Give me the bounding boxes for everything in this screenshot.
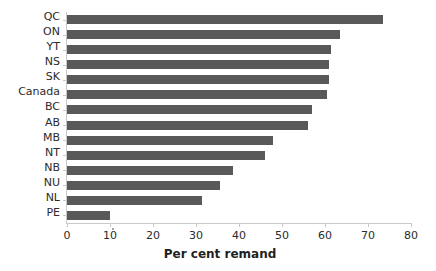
bar bbox=[67, 15, 383, 24]
bar-row: NB bbox=[67, 166, 411, 175]
x-axis-tick-label: 10 bbox=[103, 230, 117, 242]
x-axis-tick bbox=[411, 223, 412, 227]
bar-row: BC bbox=[67, 105, 411, 114]
y-axis-tick-label: NB bbox=[44, 162, 60, 173]
y-axis-line bbox=[66, 12, 67, 223]
bar-row: NL bbox=[67, 196, 411, 205]
x-axis-tick-label: 80 bbox=[404, 230, 418, 242]
bar bbox=[67, 166, 233, 175]
bar-row: ON bbox=[67, 30, 411, 39]
y-axis-tick-label: SK bbox=[46, 71, 60, 82]
x-axis-title-text: Per cent remand bbox=[164, 247, 277, 261]
bar-row: YT bbox=[67, 45, 411, 54]
x-axis-tick bbox=[110, 223, 111, 227]
y-axis-tick-label: BC bbox=[45, 101, 60, 112]
y-axis-tick-label: NU bbox=[44, 177, 60, 188]
bar-row: PE bbox=[67, 211, 411, 220]
plot-area bbox=[67, 12, 411, 223]
x-axis-tick-label: 0 bbox=[64, 230, 71, 242]
x-axis-tick bbox=[325, 223, 326, 227]
bar bbox=[67, 196, 202, 205]
bar bbox=[67, 75, 329, 84]
bar bbox=[67, 211, 110, 220]
bar bbox=[67, 60, 329, 69]
x-axis-tick-label: 50 bbox=[275, 230, 289, 242]
bar-row: MB bbox=[67, 136, 411, 145]
x-axis-tick-label: 30 bbox=[189, 230, 203, 242]
x-axis-title: Per cent remand bbox=[0, 247, 436, 261]
y-axis-tick-label: ON bbox=[43, 26, 60, 37]
x-axis-tick bbox=[282, 223, 283, 227]
bar bbox=[67, 121, 308, 130]
bar bbox=[67, 136, 273, 145]
bar-row: AB bbox=[67, 121, 411, 130]
bar bbox=[67, 90, 327, 99]
x-axis-tick bbox=[67, 223, 68, 227]
x-axis-tick bbox=[153, 223, 154, 227]
bar-chart: QCONYTNSSKCanadaBCABMBNTNBNUNLPE 0102030… bbox=[0, 0, 436, 271]
x-axis-tick-label: 60 bbox=[318, 230, 332, 242]
bar bbox=[67, 105, 312, 114]
bar-row: Canada bbox=[67, 90, 411, 99]
y-axis-tick-label: QC bbox=[44, 11, 60, 22]
bar bbox=[67, 30, 340, 39]
y-axis-tick-label: NL bbox=[46, 192, 60, 203]
x-axis-tick-label: 20 bbox=[146, 230, 160, 242]
y-axis-tick-label: AB bbox=[45, 117, 60, 128]
y-axis-tick-label: PE bbox=[46, 207, 60, 218]
bar bbox=[67, 45, 331, 54]
x-axis-tick bbox=[368, 223, 369, 227]
bar bbox=[67, 151, 265, 160]
y-axis-tick-label: NS bbox=[45, 56, 60, 67]
x-axis-tick bbox=[239, 223, 240, 227]
y-axis-tick-label: NT bbox=[45, 147, 60, 158]
x-axis-tick-label: 70 bbox=[361, 230, 375, 242]
bar-row: NU bbox=[67, 181, 411, 190]
y-axis-tick-label: Canada bbox=[18, 86, 60, 97]
bar-row: SK bbox=[67, 75, 411, 84]
x-axis-tick-label: 40 bbox=[232, 230, 246, 242]
x-axis-tick bbox=[196, 223, 197, 227]
bar bbox=[67, 181, 220, 190]
bar-row: NT bbox=[67, 151, 411, 160]
bar-row: QC bbox=[67, 15, 411, 24]
bar-row: NS bbox=[67, 60, 411, 69]
y-axis-tick-label: YT bbox=[47, 41, 60, 52]
y-axis-tick-label: MB bbox=[43, 132, 60, 143]
